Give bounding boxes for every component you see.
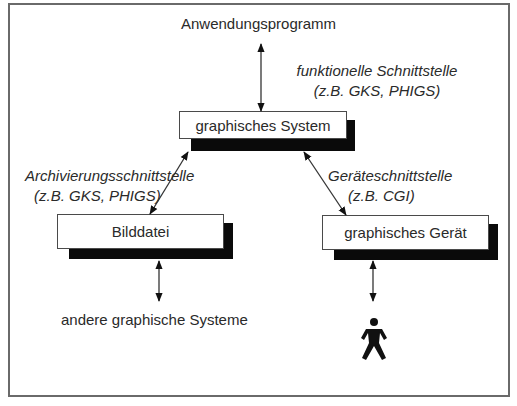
connector-arrows (0, 0, 517, 406)
person-icon (361, 318, 387, 360)
arrow-system-file (150, 152, 188, 214)
arrow-system-device (304, 152, 346, 215)
